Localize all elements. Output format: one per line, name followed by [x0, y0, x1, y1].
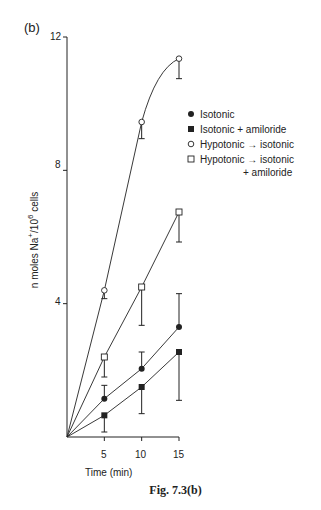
y-axis-label: n moles Na+/106 cells [26, 192, 39, 288]
y-tick-4: 4 [55, 296, 61, 307]
data-point [139, 366, 145, 372]
figure-caption: Fig. 7.3(b) [0, 483, 321, 498]
data-point [101, 412, 107, 418]
data-point [176, 209, 182, 215]
x-tick-5: 5 [101, 449, 107, 460]
open-circle-icon [187, 137, 200, 152]
data-point [102, 288, 108, 294]
data-point [139, 384, 145, 390]
data-point [139, 284, 145, 290]
legend-item-isotonic: Isotonic [187, 107, 294, 122]
open-square-icon [187, 152, 200, 167]
data-point [176, 56, 182, 62]
x-axis-label: Time (min) [85, 467, 132, 478]
chart-plot-area [0, 0, 321, 510]
series-line [67, 352, 179, 437]
legend: Isotonic Isotonic + amiloride Hypotonic … [187, 107, 294, 179]
data-point [176, 349, 182, 355]
filled-circle-icon [187, 107, 200, 122]
x-tick-15: 15 [173, 449, 184, 460]
legend-item-continuation: + amiloride [187, 167, 294, 179]
series-line [67, 59, 179, 437]
data-point [101, 354, 107, 360]
legend-item-hypotonic: Hypotonic → isotonic [187, 137, 294, 152]
filled-square-icon [187, 122, 200, 137]
legend-item-hypotonic-amiloride: Hypotonic → isotonic [187, 152, 294, 167]
y-tick-12: 12 [50, 31, 61, 42]
data-point [176, 324, 182, 330]
data-point [139, 119, 145, 125]
series-line [67, 327, 179, 437]
data-point [101, 396, 107, 402]
series-line [67, 212, 179, 437]
legend-item-isotonic-amiloride: Isotonic + amiloride [187, 122, 294, 137]
y-tick-8: 8 [55, 159, 61, 170]
x-tick-10: 10 [135, 449, 146, 460]
